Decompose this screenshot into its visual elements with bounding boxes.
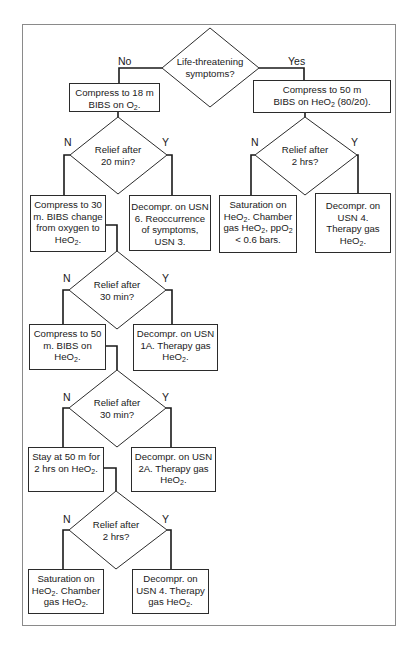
decision-text-relief-2hrs-right: Relief after2 hrs? bbox=[282, 144, 328, 168]
decision-text-relief-30min-a: Relief after30 min? bbox=[94, 279, 140, 303]
outcome-box-usn4-bottom: Decompr. on USN 4. Therapy gas HeO2. bbox=[132, 569, 209, 614]
branch-label-n: N bbox=[63, 392, 71, 403]
process-box-compress-50m: Compress to 50 m. BIBS on HeO2. bbox=[29, 324, 106, 370]
decision-text-relief-30min-b: Relief after30 min? bbox=[94, 397, 140, 421]
branch-label-n: N bbox=[63, 514, 71, 525]
branch-label-n: N bbox=[251, 137, 259, 148]
process-box-compress-18m: Compress to 18 m BIBS on O2. bbox=[69, 83, 160, 112]
outcome-box-saturation-bottom: Saturation on HeO2. Chamber gas HeO2. bbox=[28, 569, 104, 614]
branch-label-y: Y bbox=[351, 137, 358, 148]
branch-label-y: Y bbox=[162, 514, 169, 525]
outcome-box-saturation-right: Saturation on HeO2. Chamber gas HeO2, pp… bbox=[219, 195, 297, 253]
decision-text-life-threatening: Life-threateningsymptoms? bbox=[177, 56, 244, 80]
outcome-box-usn1a: Decompr. on USN 1A. Therapy gas HeO2. bbox=[133, 324, 218, 371]
branch-label-y: Y bbox=[162, 137, 169, 148]
outcome-box-usn2a: Decompr. on USN 2A. Therapy gas HeO2. bbox=[131, 447, 216, 492]
branch-label-yes: Yes bbox=[288, 56, 305, 67]
process-box-compress-50m-heo2: Compress to 50 m BIBS on HeO2 (80/20). bbox=[253, 80, 391, 113]
branch-label-y: Y bbox=[162, 273, 169, 284]
outcome-box-usn4-right: Decompr. on USN 4. Therapy gas HeO2. bbox=[315, 193, 391, 253]
decision-text-relief-20min: Relief after20 min? bbox=[95, 144, 141, 168]
process-box-stay-50m: Stay at 50 m for 2 hrs on HeO2. bbox=[28, 447, 104, 492]
branch-label-n: N bbox=[63, 273, 71, 284]
outcome-box-usn6: Decompr. on USN 6. Reoccurrence of sympt… bbox=[129, 195, 211, 251]
branch-label-n: N bbox=[64, 137, 72, 148]
decision-text-relief-2hrs-bottom: Relief after2 hrs? bbox=[93, 519, 139, 543]
process-box-compress-30m: Compress to 30 m. BIBS change from oxyge… bbox=[30, 195, 106, 252]
branch-label-no: No bbox=[118, 56, 131, 67]
branch-label-y: Y bbox=[162, 392, 169, 403]
